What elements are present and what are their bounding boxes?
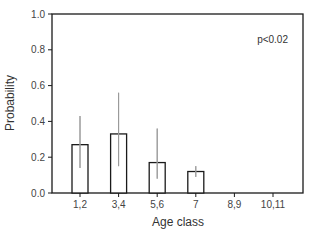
y-tick-label: 1.0 — [31, 9, 45, 20]
x-axis-ticks: 1,23,45,678,910,11 — [73, 193, 286, 210]
y-axis-ticks: 0.00.20.40.60.81.0 — [31, 9, 52, 199]
x-tick-label: 1,2 — [73, 199, 87, 210]
x-tick-label: 8,9 — [227, 199, 241, 210]
y-tick-label: 0.4 — [31, 116, 45, 127]
y-tick-label: 0.0 — [31, 188, 45, 199]
y-tick-label: 0.8 — [31, 44, 45, 55]
x-tick-label: 5,6 — [150, 199, 164, 210]
bars — [72, 134, 204, 193]
p-value-annotation: p<0.02 — [257, 34, 288, 45]
x-tick-label: 10,11 — [261, 199, 286, 210]
x-tick-label: 3,4 — [112, 199, 126, 210]
y-tick-label: 0.2 — [31, 152, 45, 163]
error-bars — [80, 93, 196, 179]
x-axis-label: Age class — [152, 215, 204, 229]
x-tick-label: 7 — [193, 199, 199, 210]
y-axis-label: Probability — [3, 75, 17, 131]
y-tick-label: 0.6 — [31, 80, 45, 91]
bar-chart: 0.00.20.40.60.81.0 1,23,45,678,910,11 Ag… — [0, 0, 312, 236]
